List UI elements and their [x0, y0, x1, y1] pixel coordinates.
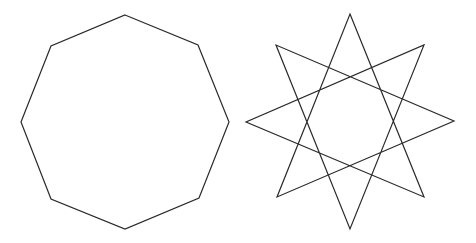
octagon-shape: [21, 15, 229, 229]
shapes-svg: [0, 0, 476, 243]
octagram-star-shape: [246, 14, 454, 229]
diagram-canvas: [0, 0, 476, 243]
